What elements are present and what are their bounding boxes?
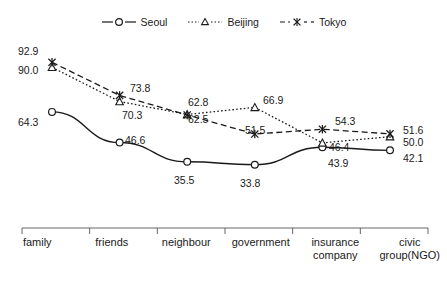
data-value-label: 46.4 [329, 142, 349, 153]
x-axis-label-friends: friends [75, 236, 150, 262]
chart-legend: Seoul Beijing Tokyo [0, 13, 447, 31]
x-axis-label-line2: group(NGO) [373, 249, 447, 262]
x-axis-label-line1: family [0, 236, 75, 249]
data-point-seoul-2[interactable] [184, 158, 191, 165]
x-axis-label-insurance-company: insurance company [298, 236, 373, 262]
data-value-label: 70.3 [122, 110, 142, 121]
data-value-label: 54.3 [335, 116, 355, 127]
circle-marker-icon [387, 147, 394, 154]
data-point-tokyo-1[interactable] [116, 91, 123, 99]
x-axis-label-line1: friends [75, 236, 150, 249]
data-value-label: 62.8 [188, 97, 208, 108]
data-value-label: 51.6 [403, 125, 423, 136]
data-value-label: 66.9 [263, 95, 283, 106]
data-point-seoul-0[interactable] [49, 108, 56, 115]
circle-marker-icon [49, 108, 56, 115]
x-axis-category-labels: family friends neighbour government insu… [0, 236, 447, 262]
x-axis [22, 228, 428, 234]
data-value-label: 43.9 [328, 158, 348, 169]
data-value-label: 42.1 [403, 153, 423, 164]
legend-item-seoul[interactable]: Seoul [101, 16, 168, 28]
data-point-tokyo-0[interactable] [48, 58, 55, 66]
x-axis-label-line2: company [298, 249, 373, 262]
data-value-label: 51.5 [245, 125, 265, 136]
x-axis-label-line1: neighbour [149, 236, 224, 249]
data-point-beijing-4[interactable] [319, 139, 327, 146]
data-point-seoul-3[interactable] [251, 161, 258, 168]
series-beijing [48, 64, 394, 147]
legend-label-beijing: Beijing [227, 17, 259, 28]
triangle-marker-icon [319, 139, 327, 146]
data-point-seoul-1[interactable] [116, 139, 123, 146]
data-value-label: 35.5 [174, 175, 194, 186]
data-value-label: 64.3 [18, 117, 38, 128]
line-x-marker-icon [279, 16, 315, 28]
x-axis-label-family: family [0, 236, 75, 262]
x-axis-label-line1: insurance [298, 236, 373, 249]
line-chart: Seoul Beijing Tokyo 92.990.064.373.870.3… [0, 0, 447, 284]
x-axis-label-government: government [224, 236, 299, 262]
data-value-label: 92.9 [18, 46, 38, 57]
data-value-label: 62.5 [188, 114, 208, 125]
circle-marker-icon [251, 161, 258, 168]
data-point-seoul-5[interactable] [387, 147, 394, 154]
x-axis-label-line1: government [224, 236, 299, 249]
x-axis-label-neighbour: neighbour [149, 236, 224, 262]
data-value-label: 46.6 [125, 135, 145, 146]
data-value-label: 50.0 [403, 137, 423, 148]
circle-marker-icon [184, 158, 191, 165]
x-axis-label-line1: civic [373, 236, 447, 249]
line-triangle-marker-icon [187, 16, 223, 28]
line-circle-marker-icon [101, 16, 137, 28]
data-value-label: 73.8 [130, 83, 150, 94]
circle-marker-icon [116, 139, 123, 146]
data-value-label: 33.8 [240, 178, 260, 189]
legend-item-beijing[interactable]: Beijing [187, 16, 259, 28]
data-value-label: 90.0 [18, 65, 38, 76]
data-point-tokyo-5[interactable] [386, 130, 393, 138]
x-axis-label-civic-group: civic group(NGO) [373, 236, 447, 262]
legend-label-seoul: Seoul [141, 17, 168, 28]
legend-item-tokyo[interactable]: Tokyo [279, 16, 346, 28]
legend-label-tokyo: Tokyo [319, 17, 346, 28]
series-line-beijing [52, 67, 390, 143]
